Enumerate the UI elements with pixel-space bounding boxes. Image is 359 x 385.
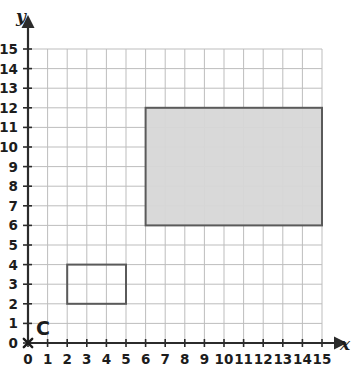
x-tick-label: 8 xyxy=(180,351,189,367)
y-axis-tick-labels: 0123456789101112131415 xyxy=(0,41,18,351)
y-axis-label: y xyxy=(15,6,27,26)
y-tick-label: 6 xyxy=(9,217,18,233)
x-tick-label: 4 xyxy=(102,351,111,367)
coordinate-plane-svg: 0123456789101112131415 01234567891011121… xyxy=(0,0,359,385)
x-tick-label: 1 xyxy=(43,351,52,367)
x-tick-label: 7 xyxy=(160,351,169,367)
y-tick-label: 1 xyxy=(9,315,18,331)
y-tick-label: 13 xyxy=(0,80,18,96)
y-tick-label: 14 xyxy=(0,61,18,77)
x-tick-label: 9 xyxy=(200,351,209,367)
x-tick-label: 0 xyxy=(23,351,32,367)
large-rectangle xyxy=(146,108,322,226)
y-tick-label: 11 xyxy=(0,119,18,135)
y-tick-label: 0 xyxy=(9,335,18,351)
coordinate-grid-figure: 0123456789101112131415 01234567891011121… xyxy=(0,0,359,385)
x-tick-label: 5 xyxy=(121,351,130,367)
y-tick-label: 5 xyxy=(9,237,18,253)
y-tick-label: 10 xyxy=(0,139,18,155)
y-tick-label: 15 xyxy=(0,41,18,57)
x-tick-label: 14 xyxy=(293,351,312,367)
point-label-c: C xyxy=(36,317,50,339)
x-axis-tick-labels: 0123456789101112131415 xyxy=(23,351,331,367)
y-tick-label: 8 xyxy=(9,178,18,194)
x-tick-label: 12 xyxy=(254,351,273,367)
y-tick-label: 4 xyxy=(9,257,18,273)
y-tick-label: 2 xyxy=(9,296,18,312)
y-tick-label: 9 xyxy=(9,159,18,175)
x-tick-label: 2 xyxy=(62,351,71,367)
x-tick-label: 6 xyxy=(141,351,150,367)
y-tick-label: 12 xyxy=(0,100,18,116)
x-tick-label: 10 xyxy=(215,351,234,367)
y-tick-label: 3 xyxy=(9,276,18,292)
x-tick-label: 3 xyxy=(82,351,91,367)
x-tick-label: 15 xyxy=(313,351,332,367)
x-tick-label: 11 xyxy=(234,351,253,367)
x-tick-label: 13 xyxy=(273,351,292,367)
x-axis-label: x xyxy=(339,334,351,354)
y-tick-label: 7 xyxy=(9,198,18,214)
